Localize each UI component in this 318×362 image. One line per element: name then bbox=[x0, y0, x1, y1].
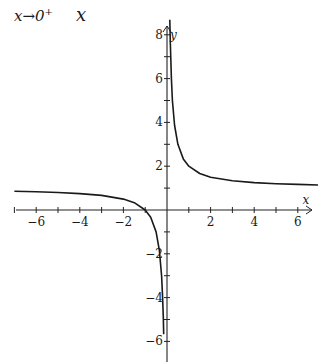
y-tick-label: 8 bbox=[155, 28, 163, 42]
x-tick-label: −2 bbox=[115, 215, 133, 229]
function-graph: −6−4−2246−6−4−22468xy bbox=[0, 0, 318, 362]
curve-right-branch bbox=[170, 20, 318, 185]
x-tick-label: 2 bbox=[207, 215, 215, 229]
y-tick-label: −4 bbox=[145, 291, 163, 305]
x-tick-label: 6 bbox=[294, 215, 302, 229]
x-tick-label: −6 bbox=[27, 215, 45, 229]
y-tick-label: −6 bbox=[145, 334, 163, 348]
y-tick-label: 6 bbox=[155, 72, 163, 86]
x-tick-label: −4 bbox=[71, 215, 89, 229]
x-axis-label: x bbox=[303, 193, 310, 207]
y-tick-label: 2 bbox=[155, 159, 163, 173]
x-tick-label: 4 bbox=[250, 215, 258, 229]
curve-left-branch bbox=[14, 191, 163, 334]
y-tick-label: 4 bbox=[155, 115, 163, 129]
